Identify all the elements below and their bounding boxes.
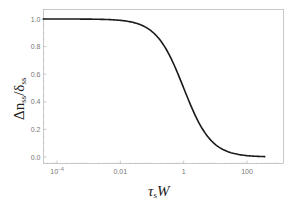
y-axis: 0.00.20.40.60.81.0 bbox=[31, 16, 47, 161]
x-tick-label: 100 bbox=[241, 168, 253, 175]
data-line bbox=[43, 19, 266, 157]
x-tick-label: 0.01 bbox=[114, 168, 128, 175]
y-tick-label: 0.8 bbox=[31, 43, 41, 50]
chart: 0.00.20.40.60.81.0 10−40.011100 τsW Δnss… bbox=[0, 0, 298, 203]
y-tick-label: 1.0 bbox=[31, 16, 41, 23]
x-tick-label: 10−4 bbox=[50, 166, 64, 175]
y-tick-label: 0.6 bbox=[31, 71, 41, 78]
plot-frame bbox=[44, 10, 284, 164]
x-axis-label: τsW bbox=[148, 183, 171, 200]
y-tick-label: 0.4 bbox=[31, 98, 41, 105]
y-tick-label: 0.0 bbox=[31, 154, 41, 161]
y-axis-label: Δnss/δss bbox=[11, 77, 28, 120]
y-tick-label: 0.2 bbox=[31, 126, 41, 133]
x-axis: 10−40.011100 bbox=[44, 161, 277, 175]
x-tick-label: 1 bbox=[182, 168, 186, 175]
